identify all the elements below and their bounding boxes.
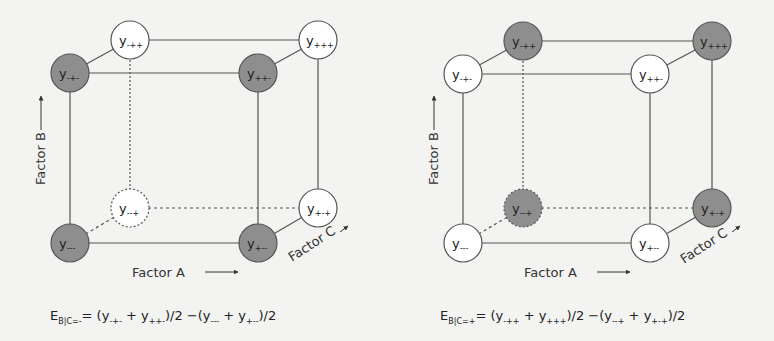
left-nodes: y-++ y+++ y-+- y++- y--+ y+-+ y--- y+-- bbox=[51, 21, 337, 262]
node-y-mmp: y--+ bbox=[504, 189, 542, 227]
svg-text:Factor C: Factor C bbox=[285, 223, 338, 264]
node-y-mpm: y-+- bbox=[444, 55, 482, 93]
svg-text:Factor A: Factor A bbox=[524, 265, 577, 280]
node-y-mpm: y-+- bbox=[51, 54, 89, 92]
node-y-mmm: y--- bbox=[51, 224, 89, 262]
left-cube bbox=[70, 40, 318, 243]
right-cube bbox=[463, 41, 712, 243]
right-factor-c-label: Factor C bbox=[677, 225, 740, 266]
right-factor-b-label: Factor B bbox=[426, 96, 441, 185]
node-y-pmm: y+-- bbox=[631, 224, 669, 262]
left-factor-a-label: Factor A bbox=[132, 265, 238, 280]
right-formula: EB|C=+= (y-++ + y+++)/2 −(y--+ + y+-+)/2 bbox=[440, 308, 685, 326]
svg-text:Factor A: Factor A bbox=[132, 265, 185, 280]
left-factor-b-label: Factor B bbox=[33, 96, 48, 185]
right-factor-a-label: Factor A bbox=[524, 265, 630, 280]
node-y-ppp: y+++ bbox=[693, 22, 731, 60]
node-y-ppm: y++- bbox=[631, 55, 669, 93]
node-y-mmp: y--+ bbox=[111, 189, 149, 227]
node-y-mmm: y--- bbox=[444, 224, 482, 262]
svg-text:Factor B: Factor B bbox=[426, 132, 441, 185]
arrow-diagonal-icon bbox=[732, 226, 740, 232]
node-y-ppm: y++- bbox=[239, 54, 277, 92]
svg-text:Factor B: Factor B bbox=[33, 132, 48, 185]
node-y-ppp: y+++ bbox=[299, 21, 337, 59]
node-y-pmm: y+-- bbox=[239, 224, 277, 262]
node-y-pmp: y+-+ bbox=[299, 189, 337, 227]
left-formula: EB|C=-= (y-+- + y++-)/2 −(y--- + y+--)/2 bbox=[50, 308, 276, 326]
svg-text:Factor C: Factor C bbox=[677, 225, 730, 266]
right-nodes: y-++ y+++ y-+- y++- y--+ y+-+ y--- y+-- bbox=[444, 22, 731, 262]
node-y-pmp: y+-+ bbox=[693, 189, 731, 227]
node-y-mpp: y-++ bbox=[504, 22, 542, 60]
arrow-diagonal-icon bbox=[340, 226, 348, 232]
left-factor-c-label: Factor C bbox=[285, 223, 348, 264]
node-y-mpp: y-++ bbox=[111, 21, 149, 59]
cube-diagrams: y-++ y+++ y-+- y++- y--+ y+-+ y--- y+-- bbox=[0, 0, 774, 341]
